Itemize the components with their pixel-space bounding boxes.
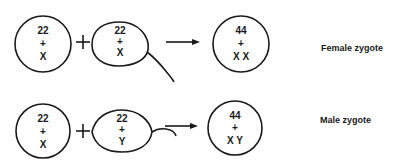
zygote-autosomes: 44	[229, 110, 241, 121]
row-male: 22 + X 22 + Y 44 + X Y Male zygote	[16, 101, 371, 158]
sperm-autosomes: 22	[116, 113, 128, 124]
sperm-tail	[147, 52, 174, 82]
row-female: 22 + X 22 + X 44 + X X Female zygote	[15, 16, 383, 82]
egg-sex-chromosome: X	[40, 51, 47, 62]
sperm-plus: +	[117, 36, 123, 47]
plus-operator	[76, 35, 90, 49]
fertilization-diagram: 22 + X 22 + X 44 + X X Female zygote 22 …	[0, 0, 403, 168]
sperm-autosomes: 22	[114, 25, 126, 36]
zygote-autosomes: 44	[235, 25, 247, 36]
arrow-icon	[165, 123, 198, 129]
zygote-sex-chromosomes: X X	[233, 51, 249, 62]
egg-plus: +	[40, 126, 46, 137]
egg-autosomes: 22	[37, 113, 49, 124]
sperm-tail	[152, 129, 176, 136]
zygote-sex-chromosomes: X Y	[227, 135, 243, 146]
sperm-sex-chromosome: Y	[119, 136, 126, 147]
egg-plus: +	[40, 38, 46, 49]
sperm-plus: +	[119, 124, 125, 135]
male-zygote-label: Male zygote	[320, 115, 371, 125]
plus-operator	[76, 124, 90, 138]
female-zygote-label: Female zygote	[321, 43, 383, 53]
zygote-plus: +	[238, 38, 244, 49]
arrow-icon	[166, 39, 200, 45]
zygote-plus: +	[232, 122, 238, 133]
sperm-sex-chromosome: X	[117, 47, 124, 58]
egg-sex-chromosome: X	[40, 139, 47, 150]
egg-autosomes: 22	[37, 25, 49, 36]
